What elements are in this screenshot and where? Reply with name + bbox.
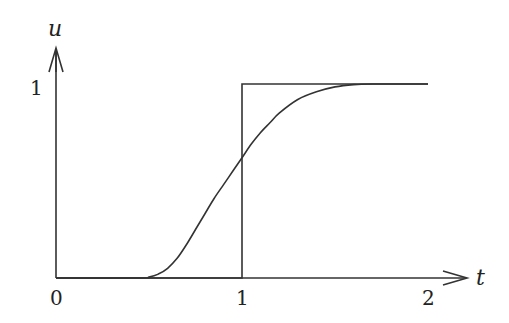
y-axis-arrow-icon: [49, 48, 63, 72]
y-tick-label-1: 1: [30, 76, 43, 100]
step-function-diagram: u t 1 0 1 2: [0, 0, 509, 323]
y-axis-label: u: [48, 16, 62, 41]
x-tick-label-2: 2: [422, 286, 435, 310]
step-function-line: [56, 84, 428, 278]
x-tick-label-0: 0: [50, 286, 63, 310]
x-axis-label: t: [476, 265, 485, 290]
x-tick-label-1: 1: [236, 286, 249, 310]
